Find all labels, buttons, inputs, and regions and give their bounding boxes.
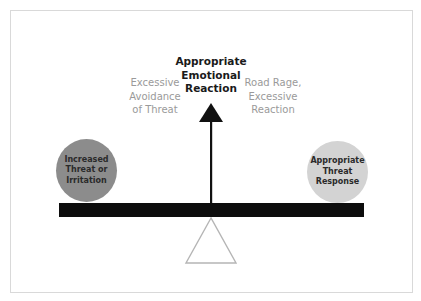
fulcrum-triangle-icon bbox=[186, 218, 236, 263]
right-weight-line-1: Appropriate bbox=[310, 156, 364, 167]
left-weight-line-1: Increased bbox=[64, 155, 108, 166]
balance-beam bbox=[59, 203, 364, 217]
right-weight-line-2: Threat bbox=[310, 167, 364, 178]
left-weight-line-2: Threat or bbox=[64, 165, 108, 176]
right-weight-circle: Appropriate Threat Response bbox=[307, 141, 368, 203]
left-weight-circle: Increased Threat or Irritation bbox=[56, 139, 117, 202]
left-weight-line-3: Irritation bbox=[64, 176, 108, 187]
right-weight-line-3: Response bbox=[310, 177, 364, 188]
